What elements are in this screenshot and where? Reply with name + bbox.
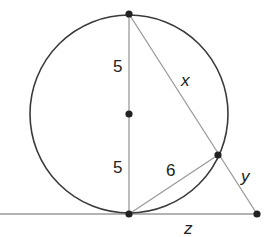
label-lower-radius: 5: [113, 158, 122, 177]
point-chord-end: [214, 151, 221, 158]
point-bottom: [125, 210, 132, 217]
secant-line: [129, 14, 257, 214]
label-secant-outer: y: [240, 167, 251, 186]
point-center: [125, 110, 132, 117]
label-upper-radius: 5: [113, 57, 122, 76]
circle-diagram: 5 5 6 x y z: [0, 0, 265, 237]
label-chord: 6: [166, 161, 175, 180]
label-secant-inner: x: [180, 71, 190, 90]
point-external: [253, 210, 260, 217]
label-tangent: z: [183, 219, 193, 237]
point-top: [125, 10, 132, 17]
